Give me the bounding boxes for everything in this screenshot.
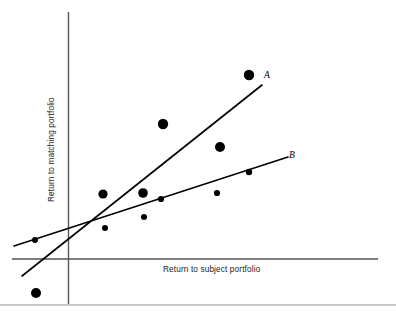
trend-line-a <box>22 85 262 276</box>
data-points-group <box>31 70 254 298</box>
data-point <box>31 288 41 298</box>
data-point <box>214 190 220 196</box>
trend-line-label-a: A <box>264 70 270 80</box>
y-axis-label: Return to matching portfolio <box>47 97 56 202</box>
data-point <box>98 189 107 198</box>
data-point <box>244 70 254 80</box>
bottom-border-strip <box>0 304 396 316</box>
data-point <box>141 214 147 220</box>
data-point <box>246 169 252 175</box>
x-axis-label: Return to subject portfolio <box>163 265 260 274</box>
data-point <box>215 142 225 152</box>
data-point <box>158 196 164 202</box>
scatter-plot-figure: Return to matching portfolio Return to s… <box>0 0 396 316</box>
data-point <box>158 119 168 129</box>
data-point <box>138 188 148 198</box>
axes-group <box>12 12 378 304</box>
data-point <box>32 237 38 243</box>
trend-line-label-b: B <box>289 150 295 160</box>
data-point <box>102 225 108 231</box>
